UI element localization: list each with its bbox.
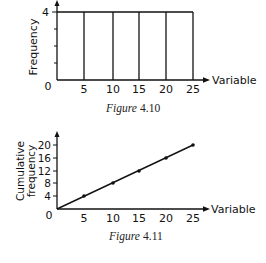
- y-axis-label: Frequency: [27, 18, 40, 75]
- x-tick-label: 20: [159, 83, 173, 96]
- figure-caption-word: Figure: [108, 230, 140, 243]
- cumulative-line: [57, 145, 193, 209]
- cumulative-frequency-figure: 4 8 12 16 20 Cumulative frequency 0 5 10…: [14, 131, 256, 243]
- figure-caption-word: Figure: [105, 102, 137, 115]
- x-tick-label: 20: [159, 212, 173, 225]
- x-tick-label: 15: [132, 212, 146, 225]
- x-tick-label: 10: [106, 83, 120, 96]
- y-tick-label: 20: [38, 139, 51, 151]
- histogram-figure: 4 Frequency 0 5 10 15 20 25 Variable Fig…: [27, 0, 257, 115]
- x-axis-label: Variable: [211, 203, 256, 216]
- x-tick-label: 5: [81, 83, 88, 96]
- y-axis-arrow-icon: [55, 131, 60, 137]
- y-tick-label: 4: [44, 190, 51, 202]
- x-tick-label: 15: [132, 83, 146, 96]
- figures-canvas: 4 Frequency 0 5 10 15 20 25 Variable Fig…: [0, 0, 266, 263]
- y-tick-label: 4: [42, 6, 49, 19]
- figure-caption-number: 4.10: [140, 102, 160, 114]
- y-tick-label: 16: [38, 152, 52, 164]
- origin-label: 0: [46, 209, 53, 222]
- x-axis-arrow-icon: [203, 77, 210, 82]
- x-tick-label: 25: [186, 83, 200, 96]
- y-axis-arrow-icon: [55, 0, 60, 6]
- y-tick-label: 8: [44, 177, 51, 189]
- y-axis-label-line2: frequency: [25, 145, 37, 198]
- x-tick-label: 5: [81, 212, 88, 225]
- histogram-bars: [57, 12, 193, 80]
- origin-label: 0: [45, 80, 52, 93]
- y-tick-label: 12: [38, 165, 51, 177]
- figure-caption-number: 4.11: [143, 230, 163, 242]
- x-tick-label: 10: [106, 212, 120, 225]
- x-tick-label: 25: [186, 212, 200, 225]
- x-axis-arrow-icon: [203, 206, 210, 211]
- x-axis-label: Variable: [212, 74, 257, 87]
